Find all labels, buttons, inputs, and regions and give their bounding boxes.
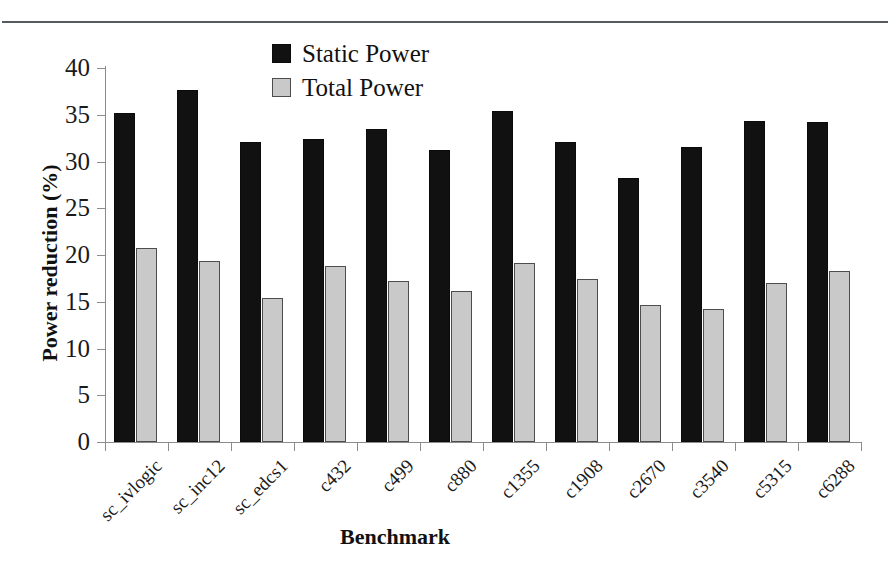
y-tick-label-wrap: 40 [28,55,90,80]
y-tick-label-wrap: 30 [28,149,90,174]
y-tick-mark [97,349,105,350]
y-tick-mark [97,395,105,396]
y-axis-line [105,66,106,444]
y-tick-label: 10 [30,336,90,361]
bar-total-power [766,283,787,442]
y-tick-label: 40 [30,55,90,80]
x-tick-mark [672,442,673,451]
bar-static-power [618,178,639,442]
y-tick-mark [97,162,105,163]
legend-label-static-power: Static Power [302,41,429,66]
legend-label-total-power: Total Power [302,75,423,100]
x-tick-mark [861,442,862,451]
x-tick-mark [483,442,484,451]
bar-total-power [325,266,346,442]
y-tick-mark [97,255,105,256]
legend-swatch-static-icon [272,44,291,63]
x-tick-mark [357,442,358,451]
bar-total-power [640,305,661,442]
x-tick-mark [420,442,421,451]
x-tick-mark [609,442,610,451]
bar-static-power [177,90,198,442]
x-tick-mark [231,442,232,451]
bar-static-power [366,129,387,442]
y-tick-label-wrap: 25 [28,195,90,220]
y-tick-label-wrap: 10 [28,336,90,361]
bar-total-power [829,271,850,442]
bar-total-power [199,261,220,442]
y-tick-label-wrap: 20 [28,242,90,267]
bar-total-power [577,279,598,442]
y-tick-label-wrap: 0 [28,429,90,454]
bar-total-power [514,263,535,442]
bar-static-power [555,142,576,442]
y-tick-mark [97,208,105,209]
x-tick-mark [735,442,736,451]
y-tick-label-wrap: 35 [28,102,90,127]
legend-item-total-power: Total Power [272,70,532,104]
y-tick-label: 25 [30,195,90,220]
bar-static-power [114,113,135,442]
bar-total-power [136,248,157,442]
bar-static-power [744,121,765,442]
y-tick-label: 30 [30,149,90,174]
header-divider [2,21,888,23]
bar-total-power [451,291,472,442]
y-tick-label-wrap: 5 [28,382,90,407]
y-tick-label: 35 [30,102,90,127]
figure-canvas: Power reduction (%) 4035302520151050 sc_… [0,0,892,577]
bar-static-power [429,150,450,442]
bar-static-power [807,122,828,442]
bar-total-power [262,298,283,442]
x-tick-mark [798,442,799,451]
x-tick-mark [105,442,106,451]
bar-total-power [703,309,724,442]
bar-static-power [303,139,324,442]
legend: Static Power Total Power [272,36,532,104]
y-tick-mark [97,68,105,69]
y-tick-label: 15 [30,289,90,314]
x-category-label: sc_ivlogic [9,455,166,577]
bar-static-power [240,142,261,442]
y-tick-label-wrap: 15 [28,289,90,314]
y-tick-label: 0 [30,429,90,454]
x-tick-mark [168,442,169,451]
bar-total-power [388,281,409,442]
bar-static-power [492,111,513,442]
x-tick-mark [294,442,295,451]
bar-static-power [681,147,702,442]
y-tick-label: 20 [30,242,90,267]
y-tick-mark [97,442,105,443]
y-tick-mark [97,115,105,116]
legend-swatch-total-icon [272,78,291,97]
y-tick-label: 5 [30,382,90,407]
x-tick-mark [546,442,547,451]
y-tick-mark [97,302,105,303]
x-axis-title: Benchmark [340,524,450,550]
legend-item-static-power: Static Power [272,36,532,70]
